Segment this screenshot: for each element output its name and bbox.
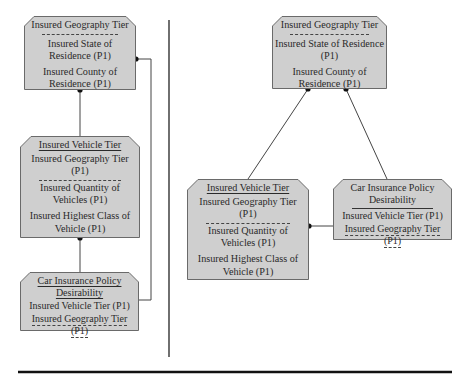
connector-geo-policy-right [346, 89, 387, 179]
entity-vehicle-left: Insured Vehicle Tier Insured Geography T… [20, 136, 140, 238]
dashed-separator [42, 34, 118, 35]
entity-title: Car Insurance Policy Desirability [23, 275, 136, 299]
solid-separator [352, 208, 433, 209]
attribute: Insured Geography Tier (P1) [23, 313, 136, 337]
entity-geography-right: Insured Geography Tier Insured State of … [272, 16, 387, 89]
entity-title: Insured Vehicle Tier [23, 139, 137, 152]
entity-vehicle-right: Insured Vehicle Tier Insured Geography T… [187, 179, 309, 280]
entity-title: Insured Geography Tier [275, 19, 384, 32]
entity-title: Insured Vehicle Tier [190, 182, 306, 195]
attribute: Insured Geography Tier (P1) [336, 223, 449, 247]
connector-geo-vehicle-right [248, 89, 308, 179]
entity-title: Insured Geography Tier [27, 19, 133, 32]
attribute: Insured County of Residence (P1) [27, 66, 133, 91]
dashed-separator [290, 34, 368, 35]
attribute: Insured State of Residence (P1) [27, 38, 133, 63]
attribute: Insured County of Residence (P1) [275, 66, 384, 91]
entity-title: Car Insurance Policy Desirability [336, 182, 449, 206]
entity-geography-left: Insured Geography Tier Insured State of … [24, 16, 136, 90]
key-attribute: Insured Geography Tier (P1) [23, 153, 137, 178]
attribute: Insured Vehicle Tier (P1) [336, 210, 449, 222]
attribute-text: Insured Geography Tier (P1) [345, 223, 441, 248]
attribute: Insured Highest Class of Vehicle (P1) [190, 253, 306, 278]
dashed-separator [206, 223, 290, 224]
attribute-text: Insured Geography Tier (P1) [32, 313, 128, 338]
entity-policy-left: Car Insurance Policy Desirability Insure… [20, 272, 139, 331]
dashed-separator [39, 180, 121, 181]
attribute: Insured Quantity of Vehicles (P1) [190, 225, 306, 250]
attribute: Insured State of Residence (P1) [275, 38, 384, 63]
attribute: Insured Vehicle Tier (P1) [23, 300, 136, 312]
attribute: Insured Highest Class of Vehicle (P1) [23, 210, 137, 235]
key-attribute: Insured Geography Tier (P1) [190, 196, 306, 221]
attribute: Insured Quantity of Vehicles (P1) [23, 182, 137, 207]
entity-policy-right: Car Insurance Policy Desirability Insure… [333, 179, 452, 240]
